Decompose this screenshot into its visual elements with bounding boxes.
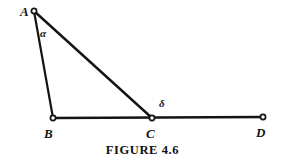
segment-group (34, 11, 263, 118)
vertex-marker-c (149, 115, 154, 120)
angle-label-delta: δ (159, 98, 165, 109)
angle-label-alpha: α (40, 28, 46, 39)
vertex-label-d: D (256, 126, 265, 139)
figure-caption: FIGURE 4.6 (0, 143, 285, 158)
vertex-marker-b (50, 115, 55, 120)
vertex-label-c: C (146, 127, 155, 140)
segment-ac (34, 11, 152, 118)
vertex-marker-group (31, 8, 265, 120)
vertex-marker-d (260, 114, 265, 119)
geometry-diagram (0, 0, 285, 166)
segment-bd (53, 117, 263, 118)
vertex-label-b: B (44, 127, 53, 140)
figure-container: A B C D α δ FIGURE 4.6 (0, 0, 285, 166)
vertex-label-a: A (20, 5, 29, 18)
vertex-marker-a (31, 8, 36, 13)
